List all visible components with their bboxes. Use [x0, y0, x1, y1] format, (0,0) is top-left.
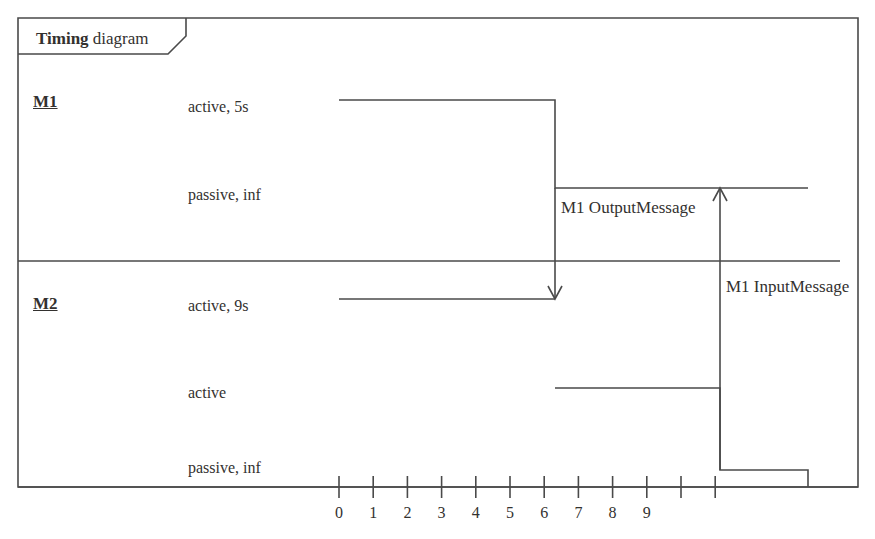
message-label-0: M1 OutputMessage: [561, 199, 696, 216]
axis-tick-label-6: 6: [532, 505, 556, 521]
state-label-m1-1: passive, inf: [188, 187, 261, 203]
axis-tick-label-4: 4: [464, 505, 488, 521]
axis-tick-label-3: 3: [430, 505, 454, 521]
axis-tick-label-5: 5: [498, 505, 522, 521]
diagram-vector-layer: [0, 0, 875, 539]
axis-tick-label-9: 9: [635, 505, 659, 521]
frame-tab-label: Timing diagram: [36, 30, 149, 47]
state-label-m1-0: active, 5s: [188, 99, 248, 115]
axis-tick-label-1: 1: [361, 505, 385, 521]
state-label-m2-0: active, 9s: [188, 298, 248, 314]
axis-tick-label-2: 2: [395, 505, 419, 521]
message-arrows: [548, 188, 727, 470]
diagram-frame: [18, 18, 858, 487]
axis-tick-label-8: 8: [601, 505, 625, 521]
time-axis: [18, 476, 858, 498]
axis-tick-label-7: 7: [566, 505, 590, 521]
timing-diagram-canvas: Timing diagram M1 OutputMessageM1 InputM…: [0, 0, 875, 539]
frame-tab-keyword: Timing: [36, 29, 89, 48]
lifeline-name-m1: M1: [33, 93, 58, 110]
state-label-m2-1: active: [188, 385, 226, 401]
frame-border: [18, 18, 858, 487]
waveform-m1: [339, 100, 808, 188]
axis-tick-label-0: 0: [327, 505, 351, 521]
state-label-m2-2: passive, inf: [188, 460, 261, 476]
waveform-m2-lower: [555, 388, 808, 487]
message-label-1: M1 InputMessage: [726, 278, 849, 295]
lifeline-name-m2: M2: [33, 295, 58, 312]
frame-tab-text: diagram: [89, 29, 149, 48]
